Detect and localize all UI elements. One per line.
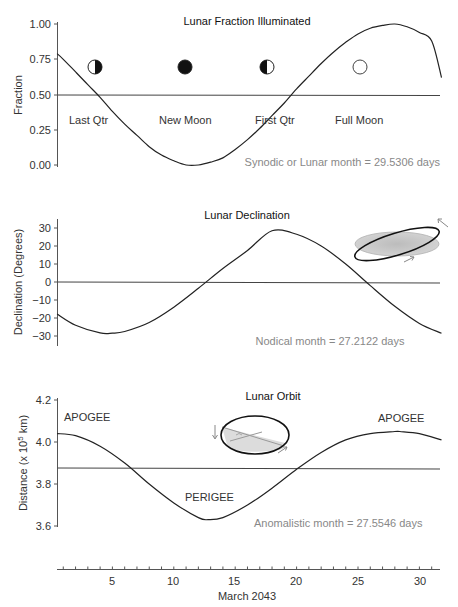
xtick-label: 25 [352,575,364,587]
fraction-title: Lunar Fraction Illuminated [183,15,310,27]
nodical-month-note: Nodical month = 27.2122 days [256,335,405,347]
ytick-label: 4.0 [36,436,51,448]
ytick-label: 10 [39,258,51,270]
ytick-label: −30 [32,330,51,342]
declination-y-ticks: −30 −20 −10 0 10 20 30 [32,222,57,342]
ytick-label: −20 [32,312,51,324]
xtick-label: 5 [109,575,115,587]
new-moon-label: New Moon [159,114,212,126]
new-moon-icon [178,60,192,74]
synodic-month-note: Synodic or Lunar month = 29.5306 days [245,156,441,168]
fraction-ylabel: Fraction [12,75,24,115]
first-quarter-moon-icon [260,60,274,74]
ytick-label: 4.2 [36,394,51,406]
ytick-label: 0.75 [30,53,51,65]
ytick-label: 30 [39,222,51,234]
ytick-label: 0.25 [30,124,51,136]
elliptical-orbit-icon [213,416,290,454]
fraction-reference-line [58,95,441,96]
ytick-label: 0.50 [30,89,51,101]
distance-y-ticks: 3.6 3.8 4.0 4.2 [36,394,58,532]
last-quarter-moon-icon [88,60,102,74]
ytick-label: 20 [39,240,51,252]
apogee-label-left: APOGEE [64,411,110,423]
inclined-orbit-icon [352,219,448,267]
x-axis: 5 10 15 20 25 30 March 2043 [57,567,440,603]
ytick-label: 3.6 [36,520,51,532]
full-moon-label: Full Moon [335,114,383,126]
xtick-label: 20 [290,575,302,587]
ytick-label: 3.8 [36,478,51,490]
anomalistic-month-note: Anomalistic month = 27.5546 days [254,517,423,529]
ytick-label: 0 [45,276,51,288]
first-qtr-label: First Qtr [255,114,295,126]
perigee-label: PERIGEE [185,491,234,503]
xtick-label: 15 [228,575,240,587]
full-moon-icon [353,60,367,74]
distance-ylabel: Distance (x 105 km) [16,415,29,511]
declination-zero-line [58,282,441,283]
ytick-label: 1.00 [30,18,51,30]
declination-title: Lunar Declination [204,209,290,221]
declination-panel: Lunar Declination Declination (Degrees) … [12,209,448,347]
ytick-label: 0.00 [30,159,51,171]
last-qtr-label: Last Qtr [69,114,108,126]
x-axis-title: March 2043 [218,590,276,602]
apogee-label-right: APOGEE [378,412,424,424]
declination-ylabel: Declination (Degrees) [12,229,24,335]
fraction-y-ticks: 0.00 0.25 0.50 0.75 1.00 [30,18,58,171]
distance-title: Lunar Orbit [245,390,300,402]
ytick-label: −10 [32,294,51,306]
lunar-charts-figure: Lunar Fraction Illuminated Fraction 0.00… [0,0,458,607]
distance-panel: Lunar Orbit Distance (x 105 km) 3.6 3.8 … [16,390,442,532]
xtick-label: 30 [414,575,426,587]
distance-mean-line [58,468,441,469]
fraction-panel: Lunar Fraction Illuminated Fraction 0.00… [12,15,442,171]
xtick-label: 10 [167,575,179,587]
